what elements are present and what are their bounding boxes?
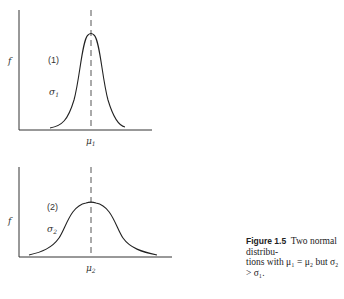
sigma-label-bottom: σ2 bbox=[47, 224, 57, 235]
chart-top: f (1) σ1 μ1 bbox=[7, 10, 152, 147]
caption-line-2: tions with μ₁ = μ₂ but σ₂ > σ₁. bbox=[246, 257, 338, 278]
curve-top bbox=[50, 34, 125, 129]
panel-label-bottom: (2) bbox=[47, 202, 58, 212]
mu-label-top: μ1 bbox=[86, 136, 96, 147]
caption-label: Figure 1.5 bbox=[246, 236, 286, 246]
panel-label-top: (1) bbox=[48, 55, 59, 65]
y-label-bottom: f bbox=[7, 216, 13, 226]
figure-caption: Figure 1.5 Two normal distribu- tions wi… bbox=[246, 236, 344, 278]
sigma-label-top: σ1 bbox=[49, 87, 59, 98]
y-label-top: f bbox=[7, 56, 13, 66]
mu-label-bottom: μ2 bbox=[86, 263, 96, 274]
chart-bottom: f (2) σ2 μ2 bbox=[7, 167, 172, 274]
